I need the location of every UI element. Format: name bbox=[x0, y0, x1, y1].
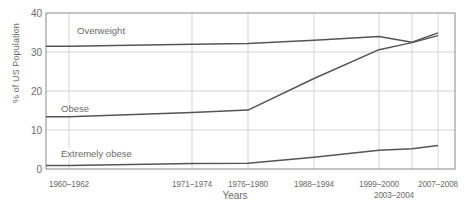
y-tick-40: 40 bbox=[16, 8, 42, 19]
x-tick-2003-2004: 2003–2004 bbox=[374, 191, 414, 200]
y-tick-20: 20 bbox=[16, 86, 42, 97]
line-chart: % of US Population Years 40 30 20 10 0 1… bbox=[0, 0, 470, 210]
series-label-extremely-obese: Extremely obese bbox=[59, 148, 134, 159]
x-tick-1960-1962: 1960–1962 bbox=[49, 180, 89, 189]
y-tick-30: 30 bbox=[16, 47, 42, 58]
x-tick-1971-1974: 1971–1974 bbox=[172, 180, 212, 189]
x-tick-1988-1994: 1988–1994 bbox=[294, 180, 334, 189]
x-tick-2007-2008: 2007–2008 bbox=[418, 180, 458, 189]
y-tick-0: 0 bbox=[16, 164, 42, 175]
y-tick-10: 10 bbox=[16, 125, 42, 136]
series-label-overweight: Overweight bbox=[75, 25, 127, 36]
x-tick-1999-2000: 1999–2000 bbox=[359, 180, 399, 189]
x-tick-1976-1980: 1976–1980 bbox=[228, 180, 268, 189]
y-axis-title: % of US Population bbox=[11, 0, 21, 133]
series-label-obese: Obese bbox=[59, 103, 91, 114]
